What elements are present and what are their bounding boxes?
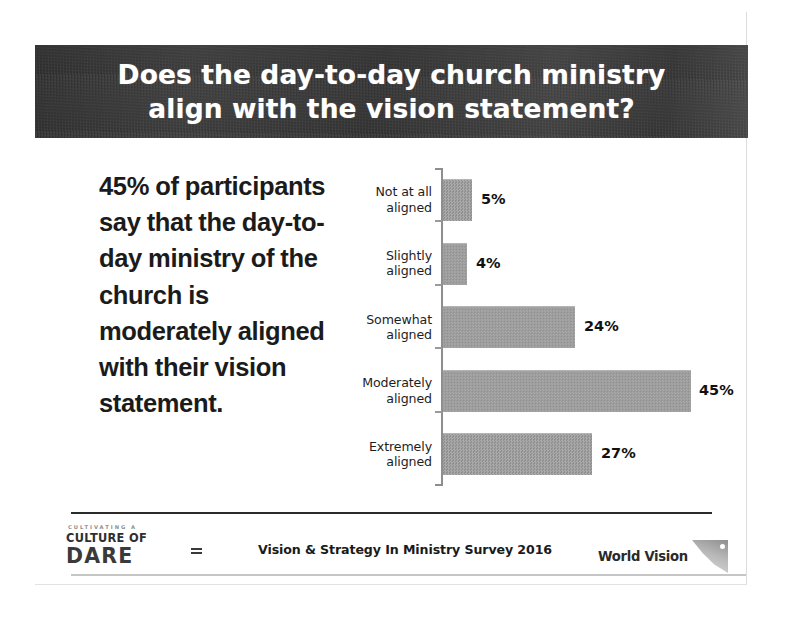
bar-value-label: 24% [584, 318, 619, 334]
chart-row: Slightly aligned 4% [335, 232, 735, 296]
category-label-line-2: aligned [335, 327, 432, 342]
bar-value-label: 45% [699, 382, 734, 398]
bar-somewhat-aligned[interactable] [443, 306, 575, 348]
category-label-line-1: Slightly [335, 248, 432, 263]
category-label: Slightly aligned [335, 248, 432, 279]
axis-tick [435, 284, 442, 286]
chart-row: Moderately aligned 45% [335, 359, 735, 423]
title-line-1: Does the day-to-day church ministry [118, 58, 666, 92]
bar-slightly-aligned[interactable] [443, 243, 467, 285]
chart-row: Not at all aligned 5% [335, 168, 735, 232]
axis-tick [435, 411, 442, 413]
logo-accent-mark [191, 548, 202, 550]
bar-moderately-aligned[interactable] [443, 370, 691, 412]
axis-tick [435, 347, 442, 349]
slide-canvas: Does the day-to-day church ministry alig… [35, 12, 747, 585]
category-label-line-2: aligned [335, 391, 432, 406]
world-vision-dot-shape [720, 544, 725, 549]
world-vision-wordmark: World Vision [598, 549, 688, 564]
logo-line-2-text: DARE [66, 544, 133, 568]
world-vision-logo: World Vision [595, 540, 735, 574]
footer-divider-top [71, 512, 712, 514]
category-label-line-2: aligned [335, 454, 432, 469]
category-label-line-1: Moderately [335, 375, 432, 390]
logo-kicker: CULTIVATING A [68, 524, 201, 530]
chart-row: Extremely aligned 27% [335, 422, 735, 486]
world-vision-mark-icon [692, 540, 728, 573]
bar-value-label: 27% [601, 445, 636, 461]
slide-title-banner: Does the day-to-day church ministry alig… [35, 45, 748, 138]
bar-value-label: 5% [481, 191, 506, 207]
narrative-text: 45% of participants say that the day-to-… [99, 168, 334, 421]
category-label: Extremely aligned [335, 439, 432, 470]
category-label-line-2: aligned [335, 200, 432, 215]
bar-value-label: 4% [476, 255, 501, 271]
culture-of-dare-logo: CULTIVATING A CULTURE OF DARE [66, 524, 201, 567]
category-label-line-1: Not at all [335, 184, 432, 199]
category-label-line-2: aligned [335, 263, 432, 278]
logo-line-2: DARE [66, 546, 201, 567]
category-label-line-1: Somewhat [335, 312, 432, 327]
bar-chart: Not at all aligned 5% Slightly aligned 4… [335, 157, 735, 492]
title-line-2: align with the vision statement? [148, 92, 634, 126]
bar-extremely-aligned[interactable] [443, 433, 592, 475]
footer-divider-bottom [71, 574, 746, 576]
category-label: Not at all aligned [335, 184, 432, 215]
bar-not-at-all-aligned[interactable] [443, 179, 472, 221]
logo-line-1: CULTURE OF [66, 531, 201, 545]
axis-tick [435, 220, 442, 222]
category-label: Moderately aligned [335, 375, 432, 406]
category-label-line-1: Extremely [335, 439, 432, 454]
footer-survey-title: Vision & Strategy In Ministry Survey 201… [220, 542, 590, 557]
chart-row: Somewhat aligned 24% [335, 295, 735, 359]
category-label: Somewhat aligned [335, 312, 432, 343]
